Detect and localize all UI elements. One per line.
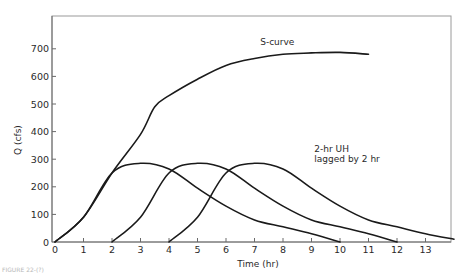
series-2-hr-uh-lagged-by-2-hr	[112, 163, 397, 242]
figure-caption: FIGURE 22-(?)	[2, 266, 44, 273]
x-tick-label: 13	[419, 244, 431, 255]
chart: 0123456789101112130100200300400500600700…	[0, 0, 465, 275]
y-tick-label: 600	[31, 71, 49, 82]
x-tick-label: 2	[109, 244, 115, 255]
series-2-hr-uh-lagged-by-4-hr	[169, 163, 454, 242]
x-tick-label: 4	[166, 244, 172, 255]
x-tick-label: 8	[280, 244, 286, 255]
y-tick-label: 0	[43, 237, 49, 248]
annotation-label: lagged by 2 hr	[314, 154, 380, 164]
x-tick-label: 7	[251, 244, 257, 255]
x-tick-label: 6	[223, 244, 229, 255]
plot-frame	[52, 16, 451, 242]
y-axis-label: Q (cfs)	[13, 125, 23, 155]
annotation-label: 2-hr UH	[314, 144, 349, 154]
annotation-label: S-curve	[260, 37, 295, 47]
x-tick-label: 5	[194, 244, 200, 255]
y-tick-label: 700	[31, 43, 49, 54]
labels-layer: S-curve2-hr UHlagged by 2 hr	[260, 37, 380, 164]
axes: 0123456789101112130100200300400500600700	[31, 16, 451, 255]
y-tick-label: 300	[31, 154, 49, 165]
x-tick-label: 3	[137, 244, 143, 255]
y-tick-label: 400	[31, 126, 49, 137]
x-tick-label: 11	[362, 244, 374, 255]
x-tick-label: 0	[52, 244, 58, 255]
series-2-hr-uh	[55, 163, 340, 242]
y-tick-label: 500	[31, 99, 49, 110]
y-tick-label: 200	[31, 181, 49, 192]
x-tick-label: 12	[391, 244, 403, 255]
series-layer	[55, 52, 454, 242]
x-tick-label: 1	[80, 244, 86, 255]
x-tick-label: 9	[308, 244, 314, 255]
y-tick-label: 100	[31, 209, 49, 220]
x-tick-label: 10	[334, 244, 346, 255]
x-axis-label: Time (hr)	[236, 259, 278, 269]
